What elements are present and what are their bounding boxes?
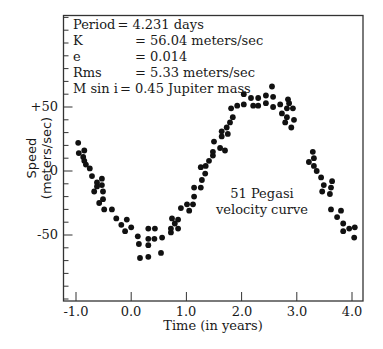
stat-value: = 56.04 meters/sec [135,33,263,49]
data-point [255,103,261,109]
data-points [75,84,357,261]
data-point [318,175,324,181]
data-point [203,163,209,169]
y-axis-label: Speed (meters/sec) [24,98,54,218]
data-point [109,207,115,213]
data-point [327,191,333,197]
y-tick-label: +50 [28,99,58,114]
y-tick-label: 0 [28,163,58,178]
data-point [135,233,141,239]
data-point [329,178,335,184]
data-point [210,149,216,155]
data-point [81,148,87,154]
data-point [101,207,107,213]
data-point [158,250,164,256]
data-point [340,228,346,234]
data-point [311,155,317,161]
stat-msini: M sin i = 0.45 Jupiter mass [73,81,263,97]
data-point [145,236,151,242]
data-point [311,163,317,169]
data-point [152,226,158,232]
x-tick-label: 0.0 [111,304,151,319]
data-point [291,117,297,123]
data-point [288,125,294,131]
data-point [290,105,296,111]
data-point [76,150,82,156]
data-point [230,114,236,120]
data-point [286,100,292,106]
stat-key: K [73,33,135,49]
data-point [99,182,105,188]
data-point [211,139,217,145]
data-point [175,217,181,223]
data-point [175,226,181,232]
data-point [89,173,95,179]
data-point [224,125,230,131]
x-axis-label: Time (in years) [143,318,283,333]
data-point [352,224,358,230]
stat-key: Period [73,17,117,33]
data-point [190,201,196,207]
stat-e: e = 0.014 [73,49,263,65]
data-point [225,131,231,137]
x-tick-label: 2.0 [222,304,262,319]
data-point [282,120,288,126]
data-point [199,177,205,183]
data-point [338,208,344,214]
data-point [328,207,334,213]
y-axis-ticks [64,17,73,299]
data-point [191,185,197,191]
annotation-line-1: 51 Pegasi [212,186,312,202]
data-point [137,255,143,261]
data-point [159,235,165,241]
data-point [263,93,269,99]
data-point [136,241,142,247]
x-axis-ticks [76,292,352,301]
data-point [279,111,285,117]
data-point [334,214,340,220]
data-point [113,216,119,222]
data-point [310,149,316,155]
data-point [96,200,102,206]
data-point [340,221,346,227]
data-point [186,208,192,214]
data-point [75,140,81,146]
data-point [270,94,276,100]
data-point [87,166,93,172]
data-point [91,189,97,195]
data-point [191,194,197,200]
data-point [250,103,256,109]
data-point [234,103,240,109]
x-tick-label: -1.0 [56,304,96,319]
data-point [346,226,352,232]
stat-k: K = 56.04 meters/sec [73,33,263,49]
data-point [321,182,327,188]
data-point [227,120,233,126]
data-point [202,171,208,177]
data-point [168,226,174,232]
y-tick-label: -50 [28,227,58,242]
data-point [94,184,100,190]
data-point [219,134,225,140]
orbital-parameters-box: Period = 4.231 days K = 56.04 meters/sec… [73,17,263,97]
data-point [145,226,151,232]
data-point [284,114,290,120]
annotation-line-2: velocity curve [212,202,312,218]
data-point [198,185,204,191]
stat-value: = 0.014 [135,49,187,65]
stat-key: e [73,49,135,65]
data-point [263,100,269,106]
data-point [217,145,223,151]
data-point [145,242,151,248]
x-tick-label: 3.0 [277,304,317,319]
data-point [222,148,228,154]
data-point [270,104,276,110]
x-tick-label: 4.0 [332,304,372,319]
data-point [198,164,204,170]
data-point [206,158,212,164]
data-point [128,224,134,230]
stat-value: = 5.33 meters/sec [135,65,255,81]
data-point [284,105,290,111]
stat-key: M sin i [73,81,120,97]
stat-value: = 4.231 days [117,17,203,33]
